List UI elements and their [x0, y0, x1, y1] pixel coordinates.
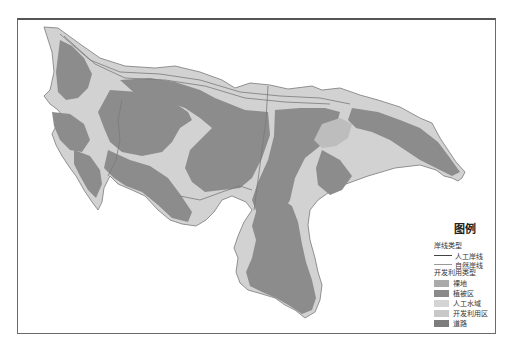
legend-item-road: 道路 [434, 318, 496, 328]
vegetation-swatch-icon [434, 290, 449, 297]
development-swatch-icon [434, 310, 449, 317]
bare-land-swatch-icon [434, 280, 449, 287]
use-section-label: 开发利用类型 [434, 269, 496, 278]
legend-item-artificial-water: 人工水域 [434, 298, 496, 308]
road-swatch-icon [434, 320, 449, 327]
legend-label: 开发利用区 [453, 308, 488, 318]
legend-label: 裸地 [453, 278, 467, 288]
legend: 图例 岸线类型 人工岸线 自然岸线 开发利用类型 裸地 植被区 人工水域 开发利… [434, 220, 496, 328]
legend-label: 人工水域 [453, 298, 481, 308]
legend-item-development: 开发利用区 [434, 308, 496, 318]
artificial-water-swatch-icon [434, 300, 449, 307]
legend-label: 植被区 [453, 288, 474, 298]
legend-label: 道路 [453, 318, 467, 328]
legend-item-vegetation: 植被区 [434, 288, 496, 298]
natural-shoreline-line-icon [434, 264, 452, 265]
legend-item-bare-land: 裸地 [434, 278, 496, 288]
legend-item-natural-shoreline: 自然岸线 [434, 260, 496, 269]
legend-label: 自然岸线 [455, 260, 483, 270]
artificial-shoreline-line-icon [434, 255, 452, 256]
legend-title: 图例 [434, 220, 496, 236]
